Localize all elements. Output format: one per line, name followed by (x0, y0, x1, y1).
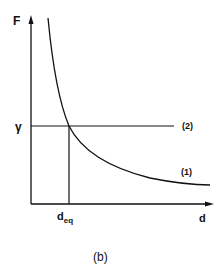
y-axis-label: F (13, 14, 20, 28)
force-distance-diagram: F γ (2) (1) d deq (b) (0, 0, 224, 272)
curve-1 (48, 18, 210, 185)
figure-caption: (b) (93, 250, 108, 264)
curve-2-label: (2) (182, 121, 193, 131)
d-eq-label: deq (57, 210, 73, 225)
curve-1-label: (1) (181, 167, 192, 177)
y-axis-arrow-icon (29, 15, 34, 24)
x-axis-label: d (199, 212, 206, 224)
gamma-label: γ (15, 120, 22, 134)
x-axis-arrow-icon (205, 202, 214, 207)
